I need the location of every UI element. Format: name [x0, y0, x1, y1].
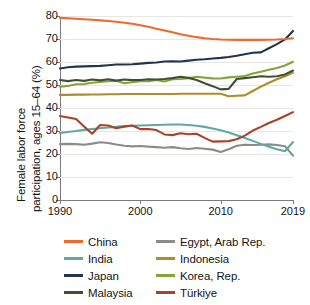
legend-item-t-rkiye[interactable]: Türkiye [156, 287, 304, 299]
legend-swatch-korea-rep [156, 274, 175, 277]
x-tick-mark [60, 200, 61, 204]
legend-swatch-china [64, 240, 83, 243]
series-line-china [60, 18, 293, 40]
y-tick-label: 60 [28, 55, 58, 67]
legend-swatch-india [64, 257, 83, 260]
legend-label-t-rkiye: Türkiye [180, 287, 217, 299]
legend-label-india: India [88, 253, 112, 265]
legend-label-korea-rep: Korea, Rep. [180, 270, 240, 282]
x-tick-label: 1990 [36, 205, 84, 217]
legend-label-japan: Japan [88, 270, 119, 282]
legend-item-china[interactable]: China [64, 236, 156, 248]
legend-label-malaysia: Malaysia [88, 287, 133, 299]
y-tick-label: 70 [28, 32, 58, 44]
y-tick-label: 30 [28, 124, 58, 136]
plot-area [60, 16, 293, 200]
x-tick-label: 2000 [116, 205, 164, 217]
legend-swatch-t-rkiye [156, 291, 175, 294]
legend-swatch-egypt-arab-rep [156, 240, 175, 243]
y-tick-label: 20 [28, 147, 58, 159]
x-tick-label: 2010 [197, 205, 245, 217]
y-tick-label: 80 [28, 9, 58, 21]
x-axis-line [60, 200, 294, 201]
x-tick-mark [140, 200, 141, 204]
legend-item-malaysia[interactable]: Malaysia [64, 287, 156, 299]
legend-item-korea-rep[interactable]: Korea, Rep. [156, 270, 304, 282]
legend-item-egypt-arab-rep[interactable]: Egypt, Arab Rep. [156, 236, 304, 248]
y-axis-title-line-1: Female labor force [15, 108, 27, 202]
chart-legend: ChinaEgypt, Arab Rep.IndiaIndonesiaJapan… [64, 233, 304, 301]
legend-item-japan[interactable]: Japan [64, 270, 156, 282]
series-line-japan [60, 31, 293, 68]
legend-label-indonesia: Indonesia [180, 253, 229, 265]
data-series-layer [60, 16, 293, 200]
chart-figure: Female labor force participation, ages 1… [0, 0, 310, 305]
legend-label-egypt-arab-rep: Egypt, Arab Rep. [180, 236, 265, 248]
legend-item-indonesia[interactable]: Indonesia [156, 253, 304, 265]
x-tick-label: 2019 [269, 205, 310, 217]
series-line-t-rkiye [60, 112, 293, 141]
series-line-egypt-arab-rep [60, 142, 293, 155]
y-tick-label: 40 [28, 101, 58, 113]
x-tick-mark [221, 200, 222, 204]
legend-swatch-indonesia [156, 257, 175, 260]
legend-swatch-japan [64, 274, 83, 277]
legend-swatch-malaysia [64, 291, 83, 294]
y-tick-label: 50 [28, 78, 58, 90]
legend-item-india[interactable]: India [64, 253, 156, 265]
y-tick-label: 10 [28, 170, 58, 182]
y-tick-label: 0 [28, 193, 58, 205]
x-tick-mark [293, 200, 294, 204]
legend-label-china: China [88, 236, 118, 248]
